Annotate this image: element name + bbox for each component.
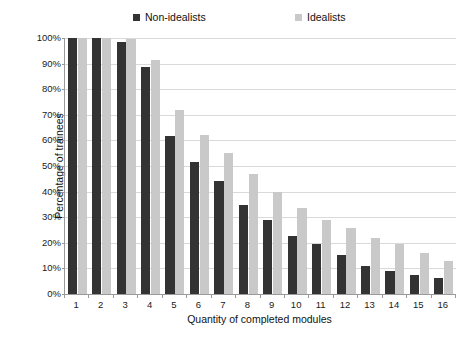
x-axis-tick-label: 10	[284, 299, 308, 310]
x-axis-tick-label: 6	[186, 299, 210, 310]
bar	[395, 244, 404, 294]
y-axis-tick-label: 80%	[42, 84, 61, 94]
bar	[263, 220, 272, 294]
y-axis-tick-label: 40%	[42, 187, 61, 197]
bar-group	[117, 38, 136, 294]
y-axis-tick-label: 20%	[42, 238, 61, 248]
bar	[151, 60, 160, 294]
x-axis-tick-mark	[455, 295, 456, 298]
bar	[249, 174, 258, 294]
bar	[371, 238, 380, 294]
y-axis-tick-label: 0%	[47, 289, 61, 299]
x-axis-tick-mark	[88, 295, 89, 298]
x-axis-title: Quantity of completed modules	[64, 313, 455, 325]
x-axis-tick-mark	[113, 295, 114, 298]
bar	[385, 271, 394, 294]
bar-group	[214, 38, 233, 294]
bar	[126, 39, 135, 294]
plot-area: 0%10%20%30%40%50%60%70%80%90%100%	[64, 38, 456, 295]
x-axis-tick-label: 9	[260, 299, 284, 310]
legend-label-idealists: Idealists	[307, 11, 346, 23]
bar	[214, 181, 223, 294]
x-axis-tick-mark	[162, 295, 163, 298]
bar	[165, 136, 174, 294]
x-axis-tick-label: 5	[162, 299, 186, 310]
legend-entry-non-idealists: Non-idealists	[133, 10, 206, 24]
bar	[117, 42, 126, 294]
x-axis-tick-mark	[431, 295, 432, 298]
bar	[78, 38, 87, 294]
bar-group	[361, 38, 380, 294]
x-axis-tick-mark	[235, 295, 236, 298]
bar	[322, 220, 331, 294]
y-axis-tick-label: 70%	[42, 110, 61, 120]
x-axis-tick-label: 7	[211, 299, 235, 310]
x-axis-tick-label: 16	[431, 299, 455, 310]
bar	[312, 244, 321, 294]
bar	[288, 236, 297, 294]
x-axis-tick-label: 13	[357, 299, 381, 310]
bar-group	[68, 38, 87, 294]
bar	[420, 253, 429, 294]
y-axis-tick-label: 100%	[37, 33, 61, 43]
x-axis-tick-label: 14	[382, 299, 406, 310]
y-axis-tick-label: 50%	[42, 161, 61, 171]
bar-group	[92, 38, 111, 294]
bar-group	[434, 38, 453, 294]
y-axis-tick-label: 30%	[42, 212, 61, 222]
x-axis-ticks: 12345678910111213141516	[64, 295, 455, 311]
y-axis-tick-label: 90%	[42, 59, 61, 69]
bar	[434, 278, 443, 294]
bar	[346, 228, 355, 294]
chart-legend: Non-idealists Idealists	[0, 10, 471, 26]
x-axis-tick-mark	[406, 295, 407, 298]
bar	[92, 38, 101, 294]
y-axis-tick-label: 60%	[42, 135, 61, 145]
x-axis-tick-mark	[137, 295, 138, 298]
x-axis-tick-label: 2	[88, 299, 112, 310]
bar	[141, 67, 150, 294]
x-axis-tick-label: 3	[113, 299, 137, 310]
bar	[175, 110, 184, 294]
bar	[239, 205, 248, 294]
x-axis-tick-label: 1	[64, 299, 88, 310]
legend-swatch-icon-non-idealists	[133, 14, 140, 21]
bar-group	[190, 38, 209, 294]
bar-group	[165, 38, 184, 294]
bar-groups	[65, 38, 456, 294]
bar-group	[385, 38, 404, 294]
bar	[200, 135, 209, 294]
x-axis-tick-label: 12	[333, 299, 357, 310]
y-axis-tick-label: 10%	[42, 263, 61, 273]
x-axis-tick-mark	[308, 295, 309, 298]
x-axis-tick-mark	[333, 295, 334, 298]
bar-chart: Non-idealists Idealists Percentage of tr…	[0, 0, 471, 341]
bar	[190, 162, 199, 294]
bar-group	[288, 38, 307, 294]
bar-group	[410, 38, 429, 294]
bar-group	[337, 38, 356, 294]
bar	[410, 275, 419, 294]
x-axis-tick-mark	[64, 295, 65, 298]
x-axis-tick-mark	[357, 295, 358, 298]
bar	[273, 192, 282, 294]
bar-group	[263, 38, 282, 294]
bar	[337, 255, 346, 294]
bar	[224, 153, 233, 294]
x-axis-tick-mark	[211, 295, 212, 298]
x-axis-tick-label: 11	[308, 299, 332, 310]
x-axis-tick-label: 15	[406, 299, 430, 310]
bar	[102, 38, 111, 294]
x-axis-tick-mark	[284, 295, 285, 298]
bar	[68, 38, 77, 294]
legend-entry-idealists: Idealists	[295, 10, 346, 24]
x-axis-tick-mark	[186, 295, 187, 298]
x-axis-tick-label: 8	[235, 299, 259, 310]
bar-group	[239, 38, 258, 294]
y-axis-title-wrap: Percentage of trainees	[2, 38, 18, 294]
x-axis-tick-mark	[260, 295, 261, 298]
bar	[297, 208, 306, 294]
x-axis-tick-mark	[382, 295, 383, 298]
legend-label-non-idealists: Non-idealists	[145, 11, 206, 23]
bar-group	[141, 38, 160, 294]
